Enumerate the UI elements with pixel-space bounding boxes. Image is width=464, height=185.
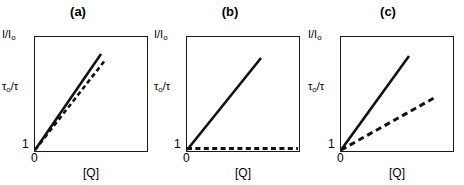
panel-b: (b) I/Io τo/τ 1 0 [Q]: [152, 0, 307, 185]
panel-a-ylabel-lifetime-ratio: τo/τ: [2, 80, 18, 96]
panel-a-dashed-line-lifetime: [35, 59, 106, 150]
panel-a-y-tick-one: 1: [22, 138, 29, 151]
panel-b-ylabel-lifetime-ratio: τo/τ: [154, 80, 170, 96]
panel-c-solid-line-intensity: [341, 56, 409, 150]
panel-c-ylabel-lifetime-ratio: τo/τ: [308, 80, 324, 96]
panel-c-plot-area: [340, 36, 454, 152]
panel-a-plot-area: [34, 36, 148, 152]
panel-b-origin-zero: 0: [183, 152, 190, 165]
panel-a-xlabel: [Q]: [34, 166, 148, 180]
panel-a-title: (a): [8, 4, 148, 20]
panel-c-y-tick-one: 1: [328, 138, 335, 151]
panel-c-ylabel-intensity-ratio: I/Io: [308, 28, 322, 44]
panel-b-xlabel: [Q]: [186, 166, 300, 180]
panel-c-origin-zero: 0: [337, 152, 344, 165]
panel-c-dashed-line-lifetime: [341, 98, 434, 150]
panel-b-plot-area: [186, 36, 300, 152]
panel-c-xlabel: [Q]: [340, 166, 454, 180]
panel-b-y-tick-one: 1: [174, 138, 181, 151]
stern-volmer-figure: (a) I/Io τo/τ 1 0 [Q] (b) I/Io τo/τ 1 0 …: [0, 0, 464, 185]
panel-a-origin-zero: 0: [31, 152, 38, 165]
panel-a: (a) I/Io τo/τ 1 0 [Q]: [0, 0, 155, 185]
panel-b-title: (b): [160, 4, 300, 20]
panel-c: (c) I/Io τo/τ 1 0 [Q]: [306, 0, 461, 185]
panel-b-ylabel-intensity-ratio: I/Io: [154, 28, 168, 44]
panel-a-ylabel-intensity-ratio: I/Io: [2, 28, 16, 44]
panel-b-solid-line-intensity: [187, 58, 261, 150]
panel-c-title: (c): [318, 4, 458, 20]
